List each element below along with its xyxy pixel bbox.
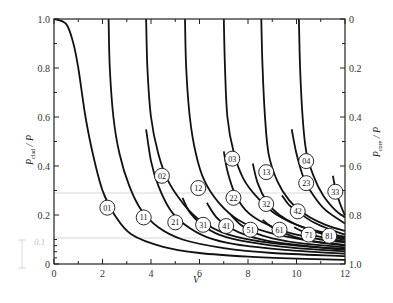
x-tick-label: 8 — [246, 268, 251, 279]
mode-label-81: 81 — [322, 228, 337, 243]
mode-label-03: 03 — [225, 151, 240, 166]
y-tick-label-left: 1.0 — [38, 14, 51, 25]
svg-text:21: 21 — [171, 218, 179, 227]
svg-text:04: 04 — [302, 157, 310, 166]
mode-label-51: 51 — [243, 222, 258, 237]
svg-text:03: 03 — [228, 155, 236, 164]
chart: 0.1 011121021231032241511332610423427181… — [0, 0, 393, 303]
x-tick-label: 12 — [340, 268, 350, 279]
mode-label-41: 41 — [219, 219, 234, 234]
mode-label-31: 31 — [196, 217, 211, 232]
svg-text:33: 33 — [331, 188, 339, 197]
faint-annotation: 0.1 — [34, 237, 45, 247]
mode-label-42: 42 — [290, 204, 305, 219]
mode-label-71: 71 — [301, 227, 316, 242]
y-tick-label-left: 0.2 — [38, 210, 51, 221]
svg-text:41: 41 — [222, 222, 230, 231]
svg-text:12: 12 — [194, 184, 202, 193]
y-tick-label-right: 0.6 — [349, 161, 362, 172]
svg-text:32: 32 — [262, 200, 270, 209]
mode-label-04: 04 — [299, 154, 314, 169]
mode-label-01: 01 — [100, 200, 115, 215]
mode-label-23: 23 — [299, 176, 314, 191]
svg-text:02: 02 — [158, 172, 166, 181]
y-tick-label-right: 0 — [349, 14, 354, 25]
y-tick-label-right: 0.4 — [349, 112, 362, 123]
svg-text:11: 11 — [140, 213, 148, 222]
mode-labels-group: 01112102123103224151133261042342718133 — [100, 151, 343, 243]
svg-text:22: 22 — [229, 194, 237, 203]
y-tick-label-right: 0.8 — [349, 210, 362, 221]
y-tick-label-right: 0.2 — [349, 63, 362, 74]
mode-label-33: 33 — [328, 184, 343, 199]
svg-text:71: 71 — [305, 231, 313, 240]
y-tick-label-left: 0.8 — [38, 63, 51, 74]
svg-text:61: 61 — [276, 226, 284, 235]
y-tick-label-right: 1.0 — [349, 259, 362, 270]
x-tick-label: 0 — [52, 268, 57, 279]
x-tick-label: 10 — [292, 268, 302, 279]
mode-label-13: 13 — [259, 165, 274, 180]
x-tick-label: 4 — [149, 268, 154, 279]
mode-label-21: 21 — [168, 215, 183, 230]
svg-text:51: 51 — [246, 226, 254, 235]
mode-label-22: 22 — [226, 190, 241, 205]
svg-text:Pclad / P: Pclad / P — [24, 135, 36, 166]
y-tick-label-left: 0.6 — [38, 112, 51, 123]
mode-label-11: 11 — [136, 210, 151, 225]
svg-text:42: 42 — [294, 207, 302, 216]
y-tick-label-left: 0.4 — [38, 161, 51, 172]
x-tick-label: 2 — [100, 268, 105, 279]
svg-text:31: 31 — [199, 221, 207, 230]
mode-label-61: 61 — [272, 222, 287, 237]
mode-label-02: 02 — [154, 168, 169, 183]
svg-text:01: 01 — [103, 204, 111, 213]
mode-label-12: 12 — [191, 181, 206, 196]
mode-label-32: 32 — [259, 196, 274, 211]
svg-text:Pcore / P: Pcore / P — [371, 127, 383, 158]
svg-text:81: 81 — [325, 232, 333, 241]
y-axis-title-left: Pclad / P — [24, 135, 36, 166]
y-axis-title-right: Pcore / P — [371, 127, 383, 158]
svg-text:13: 13 — [262, 168, 270, 177]
y-tick-label-left: 0 — [45, 259, 50, 270]
svg-text:23: 23 — [302, 179, 310, 188]
